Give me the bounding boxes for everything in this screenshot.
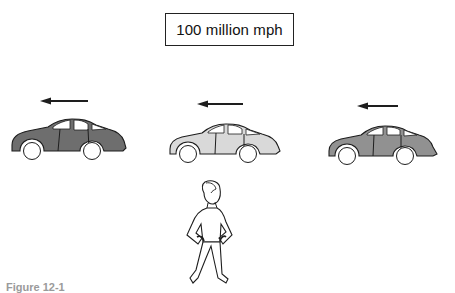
arrow-left-icon (357, 100, 401, 112)
figure-caption: Figure 12-1 (6, 282, 65, 293)
arrow-left-icon (40, 95, 92, 107)
motion-arrow-right-car (357, 100, 401, 112)
car-middle (166, 119, 286, 165)
wheel-icon (84, 143, 101, 160)
motion-arrow-middle-car (197, 98, 247, 110)
person-icon (184, 180, 236, 292)
car-right (325, 121, 443, 167)
speed-label: 100 million mph (176, 21, 283, 38)
arrow-left-icon (197, 98, 247, 110)
wheel-icon (397, 148, 414, 165)
wheel-icon (180, 146, 197, 163)
car-icon (325, 121, 443, 167)
speed-label-box: 100 million mph (165, 13, 294, 46)
car-icon (8, 115, 130, 163)
wheel-icon (240, 146, 257, 163)
motion-arrow-left-car (40, 95, 92, 107)
car-icon (166, 119, 286, 165)
observer-person (184, 180, 236, 292)
wheel-icon (339, 148, 356, 165)
car-left (8, 115, 130, 163)
wheel-icon (24, 143, 41, 160)
